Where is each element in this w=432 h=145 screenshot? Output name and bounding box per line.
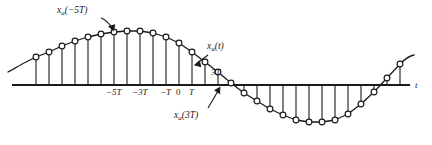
- callout-xa-t-arg: (t): [215, 41, 224, 51]
- tick-label-minus-3T: −3T: [132, 88, 148, 97]
- tick-label-minus-T: −T: [160, 88, 171, 97]
- callout-minus5T-arg: (−5T): [65, 5, 88, 15]
- callout-label-analog-signal: xa(t): [207, 42, 224, 53]
- callout-label-3T: 3T: [211, 68, 221, 77]
- callout-xa-3T-arg: (3T): [182, 110, 198, 120]
- sampled-signal-figure: −5T −3T −T 0 T 3T t xa(−5T) xa(t) xa(3T): [0, 0, 432, 145]
- tick-label-zero: 0: [176, 88, 181, 97]
- leader-line-sample-minus5T: [101, 18, 115, 31]
- axis-label-t: t: [415, 81, 418, 90]
- tick-label-minus-5T: −5T: [106, 88, 122, 97]
- callout-label-sample-3T: xa(3T): [174, 111, 198, 122]
- leader-line-sample-3T: [208, 88, 220, 109]
- callout-label-sample-minus5T: xa(−5T): [57, 6, 88, 17]
- tick-label-T: T: [189, 88, 194, 97]
